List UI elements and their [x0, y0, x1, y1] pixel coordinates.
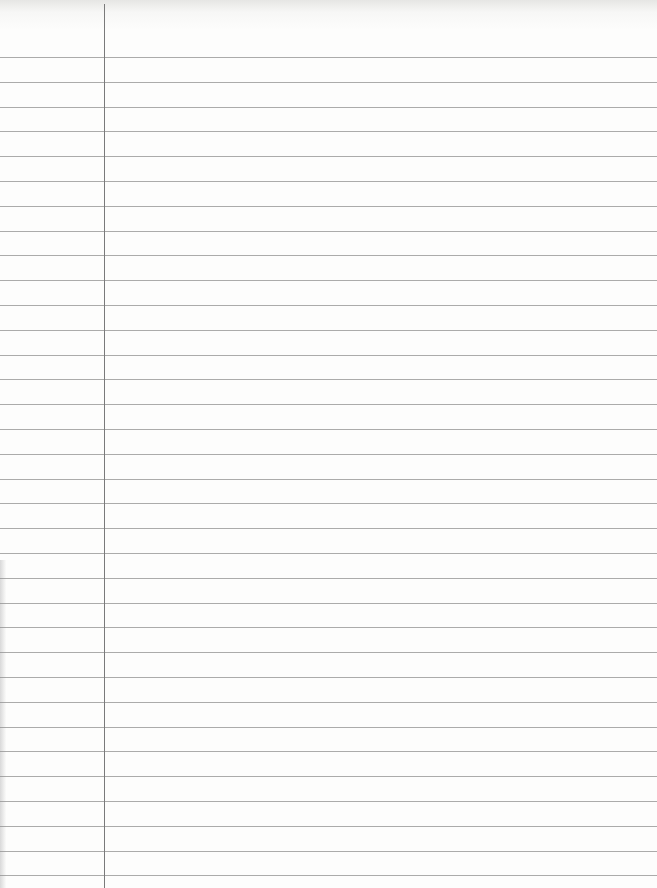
ruled-line — [0, 677, 657, 678]
ruled-line — [0, 702, 657, 703]
ruled-line — [0, 231, 657, 232]
ruled-line — [0, 454, 657, 455]
ruled-line — [0, 751, 657, 752]
ruled-line — [0, 553, 657, 554]
ruled-line — [0, 851, 657, 852]
ruled-line — [0, 131, 657, 132]
ruled-line — [0, 156, 657, 157]
notebook-page — [0, 0, 657, 888]
ruled-line — [0, 280, 657, 281]
ruled-line — [0, 826, 657, 827]
ruled-line — [0, 603, 657, 604]
ruled-line — [0, 82, 657, 83]
ruled-line — [0, 404, 657, 405]
ruled-line — [0, 206, 657, 207]
ruled-line — [0, 503, 657, 504]
ruled-line — [0, 776, 657, 777]
ruled-line — [0, 330, 657, 331]
ruled-line — [0, 627, 657, 628]
ruled-line — [0, 355, 657, 356]
ruled-line — [0, 57, 657, 58]
page-edge-shadow — [0, 560, 6, 888]
ruled-line — [0, 727, 657, 728]
ruled-line — [0, 578, 657, 579]
margin-line — [104, 4, 105, 888]
ruled-line — [0, 875, 657, 876]
ruled-line — [0, 528, 657, 529]
ruled-line — [0, 107, 657, 108]
ruled-line — [0, 429, 657, 430]
ruled-line — [0, 305, 657, 306]
ruled-line — [0, 801, 657, 802]
ruled-line — [0, 255, 657, 256]
ruled-line — [0, 479, 657, 480]
ruled-line — [0, 181, 657, 182]
ruled-line — [0, 652, 657, 653]
ruled-line — [0, 379, 657, 380]
